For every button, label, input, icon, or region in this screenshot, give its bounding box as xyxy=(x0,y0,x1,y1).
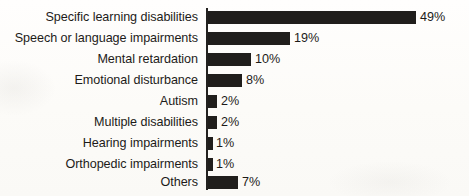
bar-multiple-disabilities xyxy=(208,116,217,129)
category-label: Multiple disabilities xyxy=(0,115,198,130)
category-label: Speech or language impairments xyxy=(0,31,198,46)
bar-mental-retardation xyxy=(208,53,251,66)
bar-autism xyxy=(208,95,217,108)
chart-row: Speech or language impairments 19% xyxy=(0,32,469,46)
category-label: Hearing impairments xyxy=(0,136,198,151)
bar-others xyxy=(208,176,238,189)
category-label: Specific learning disabilities xyxy=(0,10,198,25)
category-label: Orthopedic impairments xyxy=(0,157,198,172)
category-label: Mental retardation xyxy=(0,52,198,67)
bar-value-label: 10% xyxy=(255,52,280,67)
horizontal-bar-chart: Specific learning disabilities 49% Speec… xyxy=(0,0,469,196)
chart-row: Orthopedic impairments 1% xyxy=(0,158,469,172)
bar-value-label: 19% xyxy=(294,31,319,46)
chart-row: Multiple disabilities 2% xyxy=(0,116,469,130)
chart-row: Others 7% xyxy=(0,176,469,190)
chart-row: Specific learning disabilities 49% xyxy=(0,11,469,25)
bar-speech-or-language-impairments xyxy=(208,32,290,45)
chart-row: Mental retardation 10% xyxy=(0,53,469,67)
category-label: Others xyxy=(0,175,198,190)
category-label: Autism xyxy=(0,94,198,109)
bar-hearing-impairments xyxy=(208,137,213,150)
bar-orthopedic-impairments xyxy=(208,158,213,171)
chart-row: Hearing impairments 1% xyxy=(0,137,469,151)
bar-value-label: 1% xyxy=(216,157,234,172)
bar-value-label: 2% xyxy=(221,115,239,130)
bar-value-label: 8% xyxy=(246,73,264,88)
bar-emotional-disturbance xyxy=(208,74,242,87)
chart-row: Emotional disturbance 8% xyxy=(0,74,469,88)
chart-row: Autism 2% xyxy=(0,95,469,109)
category-label: Emotional disturbance xyxy=(0,73,198,88)
bar-value-label: 7% xyxy=(242,175,260,190)
bar-value-label: 1% xyxy=(216,136,234,151)
bar-value-label: 2% xyxy=(221,94,239,109)
bar-specific-learning-disabilities xyxy=(208,11,416,24)
bar-value-label: 49% xyxy=(420,10,445,25)
